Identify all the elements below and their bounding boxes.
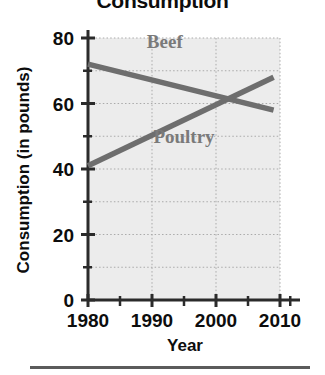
y-tick-label-80: 80 <box>53 28 74 49</box>
line-chart-plot: 020406080 1980199020002010 BeefPoultry <box>0 0 325 375</box>
y-tick-label-20: 20 <box>53 225 74 246</box>
x-tick-label-1990: 1990 <box>131 310 173 331</box>
x-tick-label-1980: 1980 <box>67 310 109 331</box>
x-axis-title: Year <box>88 336 282 356</box>
x-tick-label-2000: 2000 <box>195 310 237 331</box>
x-axis-tick-labels: 1980199020002010 <box>67 310 301 331</box>
x-tick-label-2010: 2010 <box>259 310 301 331</box>
y-tick-label-60: 60 <box>53 94 74 115</box>
y-tick-label-0: 0 <box>63 290 74 311</box>
y-tick-label-40: 40 <box>53 159 74 180</box>
series-label-poultry: Poultry <box>153 126 215 147</box>
series-label-beef: Beef <box>147 31 184 52</box>
bottom-divider-rule <box>30 366 310 369</box>
y-axis-tick-labels: 020406080 <box>53 28 74 311</box>
